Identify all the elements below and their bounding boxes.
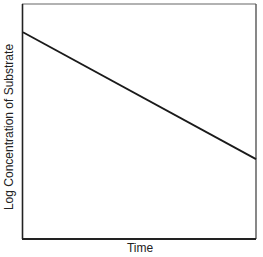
series-line [23, 32, 256, 159]
y-axis-label: Log Concentration of Substrate [2, 44, 16, 210]
x-axis-label: Time [127, 241, 153, 255]
chart-plot-area [0, 0, 263, 257]
